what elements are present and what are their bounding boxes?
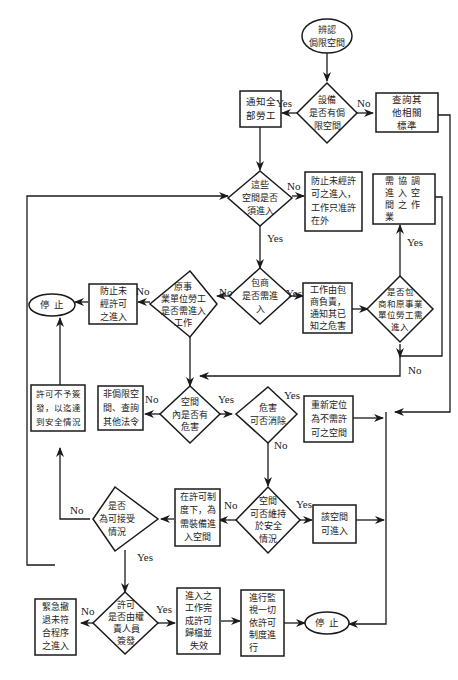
edge-label-equipment-yes: Yes xyxy=(276,98,292,109)
prevent-unauth-label: 防止未 經許可 之進入 xyxy=(89,284,137,324)
both-entry-label: 是否包 商和原事業 單位勞工需 進入 xyxy=(368,288,432,332)
edge-label-hazard-no: No xyxy=(145,394,158,405)
edge-label-contractor-yes: Yes xyxy=(286,288,302,299)
contractor-resp-label: 工作由包 商負責， 通知其已 知之危害 xyxy=(303,283,352,333)
permit-denied-label: 許可不予簽 發，以迄達 到安全情況 xyxy=(31,385,85,431)
edge-label-acceptable-no: No xyxy=(70,505,83,516)
acceptable-decision-label: 是否 為可接受 情況 xyxy=(93,499,141,539)
edge-label-need-entry-yes: Yes xyxy=(267,233,283,244)
prevent-outside-label: 防止未經許 可之進入， 工作只准許 在外 xyxy=(305,172,362,231)
edge-label-hazard-yes: Yes xyxy=(218,394,234,405)
under-permit-label: 在許可制 度下，為 需裝備進 入空間 xyxy=(175,489,220,546)
edge-label-host-no: No xyxy=(136,286,149,297)
notify-workers-label: 通知全 部勞工 xyxy=(240,91,281,127)
reclassify-label: 重新定位 為不需許 可之空間 xyxy=(304,396,353,442)
eliminate-decision-label: 危害 可否消除 xyxy=(240,402,296,428)
edge-label-contractor-no: No xyxy=(219,287,232,298)
check-other-label: 查詢其 他相關 標準 xyxy=(376,93,438,132)
edge-label-maintain-no: No xyxy=(224,500,237,511)
emergency-evac-label: 緊急撤 退未符 合程序 之進入 xyxy=(35,599,76,655)
coordinate-entry-label: 需協調 進入空 間之作 業 xyxy=(373,174,435,224)
monitor-label: 進行監 視一切 依許可 制度進 行 xyxy=(241,590,284,656)
work-complete-label: 進入之 工作完 成許可 歸檔並 失效 xyxy=(177,588,220,654)
hazard-decision-label: 空間 內是否有 危害 xyxy=(163,396,217,434)
edge-label-acceptable-yes: Yes xyxy=(137,552,153,563)
non-confined-label: 非侷限空 間、查詢 其他法令 xyxy=(98,386,143,430)
connectors xyxy=(27,53,450,624)
edge-label-both-yes: Yes xyxy=(407,237,423,248)
edge-label-maintain-yes: Yes xyxy=(296,499,312,510)
equipment-decision-label: 設備 是否有侷 限空間 xyxy=(302,93,352,133)
space-enterable-label: 該空間 可進入 xyxy=(313,505,356,543)
edge-label-permit-yes: Yes xyxy=(156,604,172,615)
contractor-decision-label: 包商 是否需進 入 xyxy=(232,276,288,316)
edge-label-permit-no: No xyxy=(81,606,94,617)
host-employer-label: 原事 業單位勞工 是否需進入 工作 xyxy=(152,280,214,330)
edge-label-eliminate-no: No xyxy=(274,440,287,451)
start-terminal-label: 辨認 侷限空間 xyxy=(302,20,352,53)
edge-label-need-entry-no: No xyxy=(287,181,300,192)
need-entry-label: 這些 空間是否 須進入 xyxy=(232,177,288,219)
edge-label-equipment-no: No xyxy=(357,98,370,109)
stop-top-label: 停 止 xyxy=(29,294,75,316)
permit-signed-label: 許可 是否由權 責人員 簽發 xyxy=(100,598,152,648)
maintain-decision-label: 空間 可否維持 於安全 情況 xyxy=(240,494,296,546)
edge-label-both-no: No xyxy=(408,365,421,376)
edge-label-eliminate-yes: Yes xyxy=(284,390,300,401)
stop-bottom-label: 停 止 xyxy=(305,612,349,634)
